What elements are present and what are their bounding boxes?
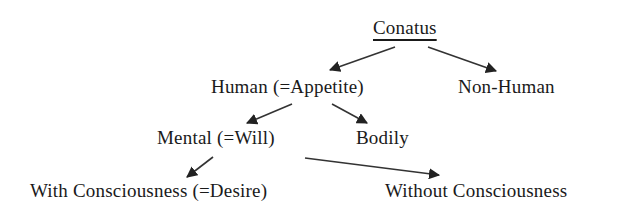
edge-mental-to-with-consciousness <box>187 157 213 177</box>
node-bodily: Bodily <box>356 128 409 147</box>
edge-conatus-to-non-human <box>428 47 496 71</box>
node-non-human: Non-Human <box>458 77 555 96</box>
node-conatus: Conatus <box>373 18 437 37</box>
node-human-appetite: Human (=Appetite) <box>211 77 364 96</box>
edge-mental-to-without-consciousness <box>305 158 439 175</box>
edge-conatus-to-human <box>330 47 395 70</box>
node-with-consciousness-desire: With Consciousness (=Desire) <box>30 181 267 200</box>
edge-human-to-bodily <box>332 104 367 123</box>
conatus-tree-diagram: Conatus Human (=Appetite) Non-Human Ment… <box>0 0 635 213</box>
node-mental-will: Mental (=Will) <box>157 128 275 147</box>
node-without-consciousness: Without Consciousness <box>385 181 567 200</box>
edge-human-to-mental <box>247 104 292 123</box>
